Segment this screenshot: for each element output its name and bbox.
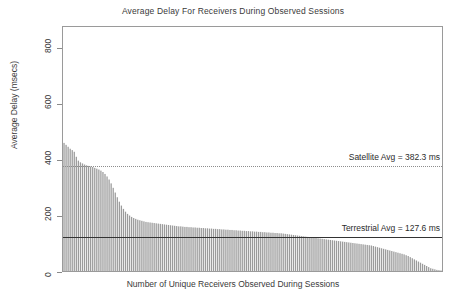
y-tick-label: 600 [48,102,58,116]
bar [293,235,294,271]
bar [379,248,380,271]
y-tick-mark [57,272,62,273]
bar [281,233,282,271]
bar [309,237,310,271]
bar [190,227,191,271]
bar [207,228,208,271]
bar [387,250,388,271]
bar [389,250,390,271]
bar [418,262,419,271]
bar [197,228,198,271]
bar [98,170,99,271]
bar [352,243,353,271]
bar [342,242,343,271]
bar [195,227,196,271]
bar [76,157,77,271]
bar [285,234,286,271]
bar [209,229,210,271]
bar [416,260,417,271]
bar [102,172,103,271]
bar [297,236,298,271]
bar [88,166,89,271]
bar [100,171,101,271]
terrestrial-average-line [63,237,442,238]
bar [213,229,214,271]
bar [272,233,273,271]
bar [276,233,277,271]
bar [326,239,327,271]
bar [373,246,374,271]
bar [391,251,392,271]
bar [90,166,91,271]
bar [434,269,435,271]
bar [205,228,206,271]
bar [393,252,394,271]
bar [440,270,441,271]
bar [319,239,320,271]
bar [217,229,218,271]
bar [82,163,83,271]
bar [375,247,376,271]
bar [426,266,427,271]
bar [78,161,79,271]
bar [305,237,306,271]
bar [123,209,124,271]
bar [354,243,355,271]
bar [184,227,185,271]
bar [125,212,126,271]
satellite-average-line [63,166,442,167]
chart-figure: Average Delay For Receivers During Obser… [0,0,466,297]
bar [399,253,400,271]
bar [438,270,439,271]
bar [188,227,189,271]
bar [358,244,359,271]
bar [80,162,81,271]
bar [406,255,407,271]
bar [420,263,421,271]
y-axis: 0200400600800 [0,0,62,297]
bar-series [63,27,442,271]
bar [229,230,230,271]
bar [117,197,118,271]
bar [336,241,337,271]
bar [295,235,296,271]
bar [65,145,66,271]
bar [289,234,290,271]
bar [303,236,304,271]
bar [186,227,187,271]
bar [328,240,329,271]
bar [436,270,437,271]
bar [74,152,75,271]
bar [201,228,202,271]
bar [225,230,226,271]
bar [422,264,423,271]
bar [317,238,318,271]
bar [270,233,271,271]
bar [301,236,302,271]
x-axis-label: Number of Unique Receivers Observed Duri… [0,279,466,289]
bar [330,240,331,271]
bar [414,259,415,271]
bar [340,241,341,271]
bar [371,245,372,271]
bar [383,249,384,271]
bar [199,228,200,271]
bar [338,241,339,271]
bar [424,265,425,271]
bar [428,267,429,271]
bar [324,239,325,271]
bar [403,254,404,271]
bar [96,169,97,271]
bar [119,202,120,271]
bar [412,258,413,271]
bar [356,244,357,271]
bar [287,234,288,271]
bar [344,242,345,271]
plot-area [62,26,443,272]
bar [278,233,279,271]
bar [227,230,228,271]
bar [348,242,349,271]
satellite-average-annotation: Satellite Avg = 382.3 ms [0,152,440,162]
bar [283,234,284,271]
bar [84,165,85,271]
